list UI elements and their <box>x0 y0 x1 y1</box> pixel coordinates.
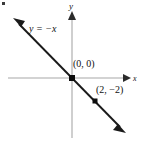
x-axis-arrowhead <box>123 74 131 82</box>
data-point-two-negative-two <box>93 99 98 104</box>
data-point-origin <box>69 75 75 81</box>
y-axis-arrowhead <box>68 11 76 20</box>
origin-point-label: (0, 0) <box>73 59 95 69</box>
line-arrowhead-upper-left <box>13 18 25 27</box>
graph-canvas <box>0 0 141 142</box>
equation-annotation: y = −x <box>29 24 56 34</box>
x-axis-label: x <box>133 75 137 83</box>
coordinate-plane-figure: y x y = −x (0, 0) (2, −2) <box>0 0 141 142</box>
second-point-label: (2, −2) <box>96 85 123 95</box>
y-axis-label: y <box>69 2 73 11</box>
